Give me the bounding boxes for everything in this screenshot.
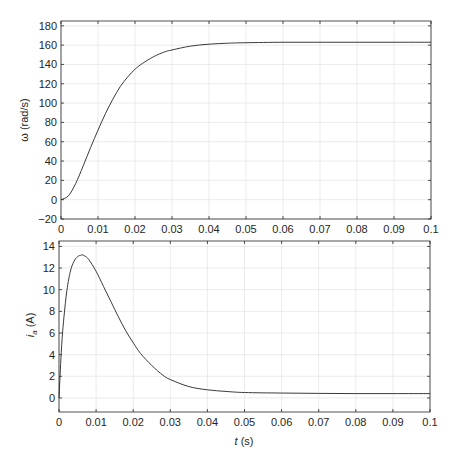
x-tick-label: 0.03 <box>160 416 181 428</box>
time-xlabel: t (s) <box>235 435 254 447</box>
x-tick-label: 0.01 <box>87 223 108 235</box>
x-tick-label: 0.08 <box>345 416 366 428</box>
x-tick-label: 0.02 <box>124 223 145 235</box>
x-tick-label: 0.04 <box>198 223 219 235</box>
y-tick-label: 20 <box>45 174 57 186</box>
y-tick-label: 180 <box>39 20 57 32</box>
y-tick-label: 0 <box>51 194 57 206</box>
y-tick-label: 140 <box>39 58 57 70</box>
x-tick-label: 0.05 <box>234 416 255 428</box>
y-tick-label: 4 <box>49 349 55 361</box>
y-tick-label: 2 <box>49 370 55 382</box>
x-tick-label: 0.07 <box>308 416 329 428</box>
y-tick-label: 160 <box>39 39 57 51</box>
x-tick-label: 0.09 <box>382 416 403 428</box>
x-tick-label: 0.06 <box>272 223 293 235</box>
y-tick-label: 10 <box>43 284 55 296</box>
time-xlabel-unit: (s) <box>238 435 254 447</box>
x-tick-label: 0.03 <box>161 223 182 235</box>
y-tick-label: 6 <box>49 327 55 339</box>
y-tick-label: 120 <box>39 78 57 90</box>
x-tick-label: 0.07 <box>309 223 330 235</box>
x-tick-label: 0.06 <box>271 416 292 428</box>
x-tick-label: 0.02 <box>122 416 143 428</box>
figure: 00.010.020.030.040.050.060.070.080.090.1… <box>0 0 454 460</box>
x-tick-label: 0.1 <box>423 223 438 235</box>
y-tick-label: 0 <box>49 392 55 404</box>
x-tick-label: 0 <box>56 416 62 428</box>
x-tick-label: 0.1 <box>422 416 437 428</box>
omega-plot: 00.010.020.030.040.050.060.070.080.090.1… <box>18 20 439 235</box>
x-tick-label: 0 <box>58 223 64 235</box>
x-tick-label: 0.04 <box>197 416 218 428</box>
y-tick-label: 100 <box>39 97 57 109</box>
omega-ylabel: ω (rad/s) <box>18 98 30 141</box>
y-tick-label: 12 <box>43 262 55 274</box>
y-tick-label: 80 <box>45 116 57 128</box>
y-tick-label: −20 <box>38 213 57 225</box>
y-tick-label: 8 <box>49 305 55 317</box>
current-ylabel: ia (A) <box>24 313 39 338</box>
y-tick-label: 14 <box>43 240 55 252</box>
current-ylabel-unit: (A) <box>24 313 36 331</box>
x-tick-label: 0.05 <box>235 223 256 235</box>
y-tick-label: 40 <box>45 155 57 167</box>
y-tick-label: 60 <box>45 136 57 148</box>
current-plot: 00.010.020.030.040.050.060.070.080.090.1… <box>24 240 438 447</box>
x-tick-label: 0.08 <box>346 223 367 235</box>
x-tick-label: 0.01 <box>85 416 106 428</box>
x-tick-label: 0.09 <box>383 223 404 235</box>
